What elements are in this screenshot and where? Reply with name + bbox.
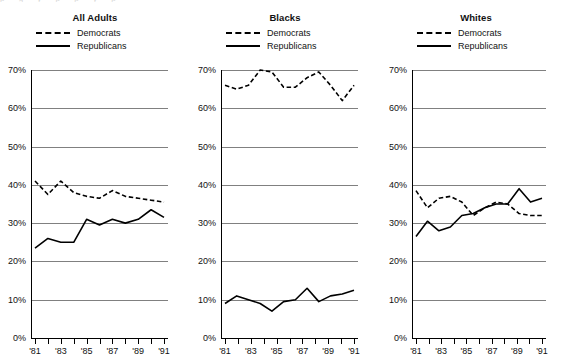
chart-panel-blacks: BlacksDemocratsRepublicans70%60%50%40%30…	[190, 0, 380, 362]
chart-legend: DemocratsRepublicans	[417, 26, 551, 52]
y-tick-label-20: 20%	[0, 257, 26, 266]
x-tick-1990	[529, 339, 530, 344]
x-tick-1984	[74, 339, 75, 344]
plot-area	[31, 70, 168, 338]
x-tick-1988	[125, 339, 126, 344]
gridline-60	[221, 108, 358, 109]
gridline-30	[31, 223, 168, 224]
y-tick-label-20: 20%	[189, 257, 216, 266]
x-tick-1982	[48, 339, 49, 344]
dashed-line-icon	[226, 28, 260, 38]
gridline-60	[31, 108, 168, 109]
x-tick-1982	[238, 339, 239, 344]
x-tick-label-1987: '87	[99, 347, 125, 356]
y-axis	[412, 70, 413, 338]
y-tick-label-40: 40%	[189, 181, 216, 190]
x-tick-label-1987: '87	[289, 347, 315, 356]
gridline-30	[412, 223, 546, 224]
y-tick-label-60: 60%	[189, 104, 216, 113]
x-tick-label-1991: '91	[529, 347, 555, 356]
legend-label: Democrats	[458, 28, 502, 38]
x-tick-1991	[164, 339, 165, 344]
x-tick-label-1987: '87	[479, 347, 505, 356]
panel-title: All Adults	[0, 12, 190, 23]
legend-label: Republicans	[267, 41, 317, 51]
x-tick-1982	[429, 339, 430, 344]
x-tick-1986	[290, 339, 291, 344]
x-tick-1985	[87, 339, 88, 344]
x-tick-1989	[328, 339, 329, 344]
x-tick-1989	[138, 339, 139, 344]
x-tick-1987	[112, 339, 113, 344]
x-tick-1981	[416, 339, 417, 344]
chart-legend: DemocratsRepublicans	[36, 26, 173, 52]
x-tick-label-1983: '83	[238, 347, 264, 356]
y-tick-label-0: 0%	[380, 334, 407, 343]
gridline-40	[31, 185, 168, 186]
gridline-50	[31, 147, 168, 148]
x-tick-label-1985: '85	[74, 347, 100, 356]
y-tick-label-10: 10%	[0, 296, 26, 305]
x-tick-1990	[151, 339, 152, 344]
dashed-line-icon	[417, 28, 451, 38]
legend-item-democrats: Democrats	[226, 26, 363, 39]
x-tick-label-1989: '89	[504, 347, 530, 356]
plot-area	[221, 70, 358, 338]
gridline-70	[412, 70, 546, 71]
gridline-50	[412, 147, 546, 148]
solid-line-icon	[226, 41, 260, 51]
x-tick-label-1989: '89	[315, 347, 341, 356]
x-tick-1991	[354, 339, 355, 344]
y-tick-label-50: 50%	[380, 143, 407, 152]
y-axis	[31, 70, 32, 338]
x-tick-1981	[225, 339, 226, 344]
x-tick-1981	[35, 339, 36, 344]
x-tick-1985	[466, 339, 467, 344]
y-tick-label-70: 70%	[0, 66, 26, 75]
x-tick-label-1981: '81	[22, 347, 48, 356]
gridline-20	[221, 261, 358, 262]
y-tick-label-60: 60%	[380, 104, 407, 113]
legend-label: Democrats	[77, 28, 121, 38]
y-tick-label-60: 60%	[0, 104, 26, 113]
x-tick-label-1983: '83	[428, 347, 454, 356]
x-tick-1983	[441, 339, 442, 344]
gridline-40	[412, 185, 546, 186]
x-tick-1991	[542, 339, 543, 344]
legend-item-republicans: Republicans	[417, 39, 551, 52]
x-tick-1983	[61, 339, 62, 344]
gridline-10	[221, 300, 358, 301]
gridline-70	[221, 70, 358, 71]
chart-panel-all-adults: All AdultsDemocratsRepublicans70%60%50%4…	[0, 0, 190, 362]
y-tick-label-70: 70%	[380, 66, 407, 75]
legend-item-republicans: Republicans	[36, 39, 173, 52]
x-tick-1984	[454, 339, 455, 344]
legend-label: Republicans	[77, 41, 127, 51]
x-tick-label-1989: '89	[125, 347, 151, 356]
legend-label: Republicans	[458, 41, 508, 51]
y-tick-label-70: 70%	[189, 66, 216, 75]
y-tick-label-30: 30%	[189, 219, 216, 228]
x-tick-label-1985: '85	[453, 347, 479, 356]
x-tick-label-1981: '81	[403, 347, 429, 356]
y-tick-label-30: 30%	[0, 219, 26, 228]
legend-item-democrats: Democrats	[36, 26, 173, 39]
y-axis	[221, 70, 222, 338]
y-tick-label-0: 0%	[189, 334, 216, 343]
gridline-20	[31, 261, 168, 262]
chart-panel-whites: WhitesDemocratsRepublicans70%60%50%40%30…	[381, 0, 562, 362]
x-tick-1990	[341, 339, 342, 344]
chart-figure: p g y p p y p All AdultsDemocratsRepubli…	[0, 0, 562, 362]
solid-line-icon	[36, 41, 70, 51]
x-tick-label-1983: '83	[48, 347, 74, 356]
legend-item-democrats: Democrats	[417, 26, 551, 39]
panel-title: Whites	[381, 12, 562, 23]
y-tick-label-30: 30%	[380, 219, 407, 228]
legend-label: Democrats	[267, 28, 311, 38]
x-tick-1985	[277, 339, 278, 344]
plot-area	[412, 70, 546, 338]
chart-legend: DemocratsRepublicans	[226, 26, 363, 52]
x-tick-1983	[251, 339, 252, 344]
gridline-70	[31, 70, 168, 71]
x-tick-1988	[315, 339, 316, 344]
